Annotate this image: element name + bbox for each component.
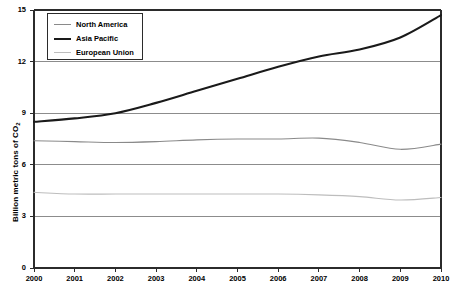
y-axis-title-text: Billion metric tons of CO — [11, 126, 20, 222]
x-tick-label: 2000 — [19, 274, 49, 283]
legend-swatch-european-union — [54, 52, 71, 53]
x-tick-label: 2009 — [385, 274, 415, 283]
legend-item-european-union: European Union — [54, 46, 134, 59]
y-axis-title-subscript: 2 — [15, 122, 21, 125]
y-tick-label: 3 — [8, 211, 26, 220]
x-tick-label: 2004 — [182, 274, 212, 283]
y-axis-title: Billion metric tons of CO2 — [11, 122, 20, 222]
x-tick-label: 2001 — [60, 274, 90, 283]
y-tick-label: 12 — [8, 57, 26, 66]
x-tick-label: 2006 — [263, 274, 293, 283]
x-tick-label: 2007 — [304, 274, 334, 283]
legend-label-asia-pacific: Asia Pacific — [76, 35, 118, 43]
legend-swatch-north-america — [54, 24, 71, 25]
y-tick-label: 9 — [8, 108, 26, 117]
x-tick-label: 2003 — [141, 274, 171, 283]
legend-item-north-america: North America — [54, 18, 127, 31]
x-tick-label: 2010 — [426, 274, 453, 283]
legend-item-asia-pacific: Asia Pacific — [54, 32, 118, 45]
y-tick-label: 0 — [8, 263, 26, 272]
legend-swatch-asia-pacific — [54, 38, 71, 40]
line-chart: Billion metric tons of CO2 03691215 2000… — [0, 0, 453, 293]
y-tick-label: 15 — [8, 5, 26, 14]
chart-legend: North America Asia Pacific European Unio… — [47, 13, 143, 60]
x-tick-label: 2002 — [100, 274, 130, 283]
y-tick-label: 6 — [8, 160, 26, 169]
x-tick-label: 2005 — [223, 274, 253, 283]
x-tick-label: 2008 — [345, 274, 375, 283]
legend-label-european-union: European Union — [76, 49, 134, 57]
legend-label-north-america: North America — [76, 21, 127, 29]
